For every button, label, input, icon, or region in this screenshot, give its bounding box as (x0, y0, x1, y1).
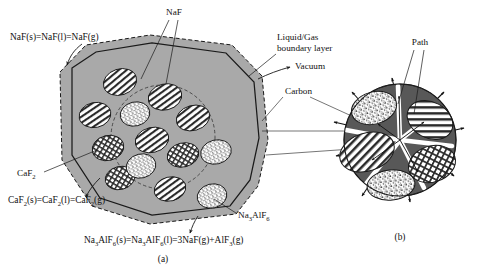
eq-cry-p4: (s)=Na (116, 235, 143, 246)
label-cryolite: Na3AlF6 (238, 210, 270, 222)
eq-cry-p8: (l)=3NaF(g)+AlF (163, 235, 229, 246)
eq-caf2-p6: (g) (94, 195, 105, 206)
label-cryolite-p0: Na (238, 210, 249, 220)
eq-cry-p10: (g) (233, 235, 244, 246)
label-caf2-sub: 2 (32, 173, 35, 180)
figure-root: NaF NaF(s)=NaF(l)=NaF(g) Liquid/Gas boun… (0, 0, 480, 274)
panel-a-caption: (a) (158, 254, 168, 265)
eq-cry-p6: AlF (146, 235, 161, 245)
label-caf2-main: CaF (17, 168, 32, 178)
equation-caf2: CaF2(s)=CaF2(l)=CaF2(g) (8, 195, 105, 207)
label-carbon: Carbon (285, 86, 312, 96)
label-boundary-line1: Liquid/Gas (277, 32, 319, 42)
label-boundary-line2: boundary layer (277, 43, 332, 53)
panel-b-caption: (b) (395, 232, 406, 243)
label-vacuum: Vacuum (295, 61, 325, 71)
eq-caf2-p2: (s)=CaF (27, 195, 58, 206)
eq-caf2-p0: CaF (8, 195, 24, 205)
label-path: Path (412, 37, 429, 47)
equation-naf: NaF(s)=NaF(l)=NaF(g) (10, 32, 99, 43)
eq-cry-p2: AlF (98, 235, 113, 245)
label-cryolite-p2: AlF (252, 210, 266, 220)
label-naf: NaF (166, 7, 182, 17)
equation-cryolite: Na3AlF6(s)=Na3AlF6(l)=3NaF(g)+AlF3(g) (84, 235, 243, 247)
